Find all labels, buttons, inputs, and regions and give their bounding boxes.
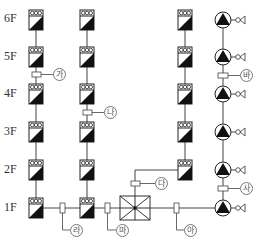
tag-sa: 사 xyxy=(240,182,253,195)
tag-ba: 바 xyxy=(240,69,253,82)
valve-a xyxy=(174,203,179,213)
valve-sa xyxy=(218,186,228,191)
valve-da xyxy=(131,181,140,186)
tag-na: 나 xyxy=(104,106,117,119)
mixing-box xyxy=(120,196,150,220)
riser-lines xyxy=(36,20,223,208)
tag-a: 아 xyxy=(184,224,197,237)
tag-ga: 가 xyxy=(53,68,66,81)
tag-ma: 마 xyxy=(116,224,129,237)
valve-na xyxy=(83,110,92,115)
valve-ra xyxy=(60,203,65,213)
valve-ga xyxy=(32,72,41,77)
tag-da: 다 xyxy=(155,177,168,190)
valve-ma xyxy=(105,203,110,213)
tag-ra: 라 xyxy=(70,224,83,237)
valve-ba xyxy=(218,73,228,78)
piping-diagram xyxy=(0,0,260,246)
